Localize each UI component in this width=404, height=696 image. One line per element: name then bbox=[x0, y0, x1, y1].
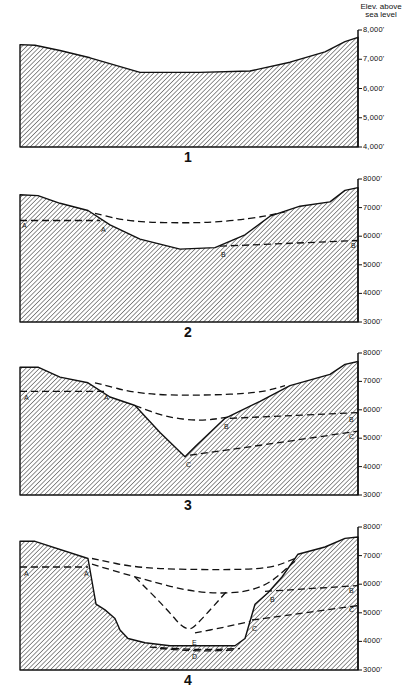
panel-1 bbox=[20, 30, 362, 147]
tick-label: 7000' bbox=[363, 551, 382, 560]
tick-label: 8000' bbox=[363, 522, 382, 531]
tick-label: 8000' bbox=[363, 174, 382, 183]
tick-label: 5000' bbox=[363, 608, 382, 617]
point-label-c: C bbox=[186, 461, 191, 468]
tick-label: 5,000' bbox=[363, 113, 384, 122]
point-label-a: A bbox=[84, 570, 89, 577]
canyon-cross-section-figure: Elev. above sea level 8,000'7,000'6,000'… bbox=[0, 0, 404, 696]
tick-label: 3000' bbox=[363, 665, 382, 674]
point-label-a: A bbox=[24, 394, 29, 401]
point-label-b: B bbox=[270, 596, 275, 603]
point-label-c: C bbox=[349, 433, 354, 440]
rock-section bbox=[20, 37, 358, 147]
tick-label: 8,000' bbox=[363, 25, 384, 34]
panel-3 bbox=[20, 353, 362, 495]
cross-sections-canvas bbox=[0, 0, 404, 696]
point-label-e: E bbox=[192, 639, 197, 646]
tick-label: 5000' bbox=[363, 260, 382, 269]
point-label-b: B bbox=[349, 416, 354, 423]
panel-2 bbox=[20, 179, 362, 322]
point-label-a: A bbox=[24, 570, 29, 577]
tick-label: 3000' bbox=[363, 317, 382, 326]
axis-title-line2: sea level bbox=[356, 11, 404, 19]
point-label-a: A bbox=[101, 226, 106, 233]
tick-label: 6000' bbox=[363, 405, 382, 414]
former-valley-profile bbox=[135, 577, 228, 629]
former-valley-profile bbox=[92, 559, 295, 570]
tick-label: 4,000' bbox=[363, 142, 384, 151]
tick-label: 4000' bbox=[363, 462, 382, 471]
panel-number: 2 bbox=[184, 324, 192, 340]
tick-label: 8000' bbox=[363, 348, 382, 357]
tick-label: 7000' bbox=[363, 376, 382, 385]
panel-number: 4 bbox=[184, 672, 192, 688]
tick-label: 4000' bbox=[363, 288, 382, 297]
tick-label: 6,000' bbox=[363, 84, 384, 93]
point-label-b: B bbox=[224, 423, 229, 430]
point-label-c: C bbox=[349, 606, 354, 613]
former-valley-profile bbox=[95, 212, 285, 223]
point-label-a: A bbox=[22, 222, 27, 229]
panel-4 bbox=[20, 527, 362, 670]
rock-section bbox=[20, 362, 358, 496]
tick-label: 3000' bbox=[363, 490, 382, 499]
point-label-d: D bbox=[192, 653, 197, 660]
axis-title: Elev. above sea level bbox=[356, 3, 404, 19]
tick-label: 7000' bbox=[363, 203, 382, 212]
point-label-b: B bbox=[351, 242, 356, 249]
former-valley-profile bbox=[135, 406, 230, 421]
former-valley-profile bbox=[195, 621, 250, 632]
rock-section bbox=[20, 188, 358, 322]
tick-label: 4000' bbox=[363, 636, 382, 645]
tick-label: 5000' bbox=[363, 433, 382, 442]
point-label-c: C bbox=[252, 625, 257, 632]
tick-label: 6000' bbox=[363, 231, 382, 240]
point-label-b: B bbox=[221, 251, 226, 258]
tick-label: 7,000' bbox=[363, 54, 384, 63]
point-label-a: A bbox=[104, 394, 109, 401]
former-valley-profile bbox=[95, 383, 285, 395]
former-valley-profile bbox=[92, 561, 295, 593]
tick-label: 6000' bbox=[363, 579, 382, 588]
panel-number: 1 bbox=[184, 149, 192, 165]
panel-number: 3 bbox=[184, 497, 192, 513]
point-label-b: B bbox=[349, 587, 354, 594]
